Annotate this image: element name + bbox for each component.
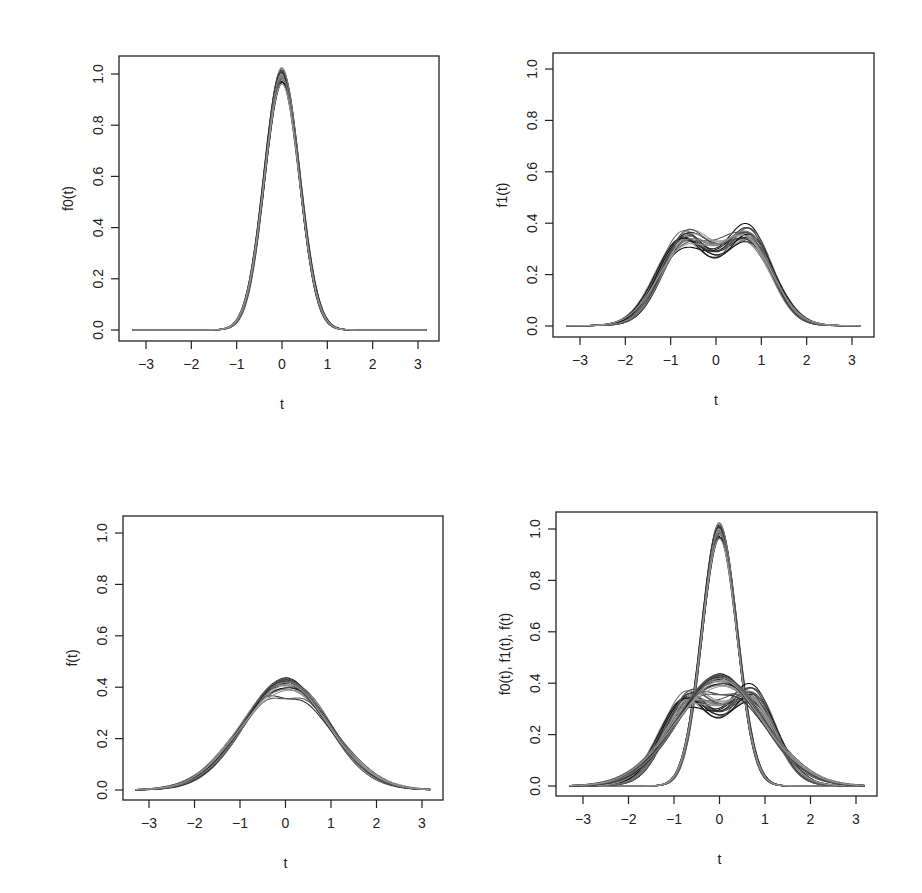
density-curve <box>132 84 426 330</box>
density-curve <box>569 692 864 786</box>
x-tick-label: 2 <box>807 811 815 827</box>
density-curve <box>135 685 430 790</box>
density-curve <box>132 72 426 330</box>
density-curve <box>569 533 864 786</box>
x-tick-label: 0 <box>716 811 724 827</box>
y-tick-label: 0.0 <box>90 320 106 340</box>
density-curve <box>135 689 430 789</box>
x-tick-label: −1 <box>666 811 682 827</box>
density-curve <box>569 539 864 786</box>
density-curve <box>569 537 864 786</box>
y-tick-label: 0.2 <box>94 729 110 749</box>
density-curve <box>132 69 426 330</box>
density-curve <box>132 73 426 330</box>
x-tick-label: 3 <box>852 811 860 827</box>
x-tick-label: −2 <box>187 815 203 831</box>
density-curve <box>132 72 426 330</box>
density-curve <box>569 680 864 786</box>
density-curve <box>566 234 860 326</box>
y-axis: 0.00.20.40.60.81.0f0(t) <box>60 64 119 340</box>
y-tick-label: 0.6 <box>527 622 543 642</box>
density-curve <box>569 530 864 786</box>
density-curve <box>569 694 864 786</box>
y-tick-label: 0.2 <box>90 269 106 289</box>
density-curve <box>569 533 864 786</box>
x-tick-label: 1 <box>323 356 331 372</box>
y-tick-label: 1.0 <box>94 523 110 543</box>
density-curve <box>566 232 860 326</box>
density-curve <box>135 684 430 790</box>
x-axis-label: t <box>284 855 288 871</box>
density-curve <box>132 78 426 330</box>
y-tick-label: 0.4 <box>90 218 106 238</box>
x-tick-label: 3 <box>414 356 422 372</box>
x-axis-label: t <box>714 392 718 408</box>
density-curve <box>132 77 426 330</box>
y-axis-label: f0(t) <box>60 186 76 211</box>
x-tick-label: −1 <box>232 815 248 831</box>
curve-group <box>132 68 426 330</box>
density-curve <box>132 82 426 330</box>
density-curve <box>132 72 426 330</box>
x-tick-label: 2 <box>369 356 377 372</box>
y-axis-label: f(t) <box>64 649 80 666</box>
y-axis-label: f0(t), f1(t), f(t) <box>497 613 513 695</box>
x-axis: −3−2−10123t <box>138 341 422 412</box>
x-tick-label: −1 <box>663 352 679 368</box>
y-tick-label: 0.4 <box>524 213 540 233</box>
y-tick-label: 0.6 <box>90 166 106 186</box>
x-tick-label: −3 <box>575 811 591 827</box>
plot-frame <box>556 512 877 796</box>
density-curve <box>569 527 864 786</box>
density-curve <box>566 234 860 326</box>
density-curve <box>566 234 860 326</box>
density-curve <box>569 526 864 786</box>
density-curve <box>135 679 430 790</box>
density-curve <box>135 680 430 790</box>
plot-overlay-f0-f1-f: −3−2−10123t0.00.20.40.60.81.0f0(t), f1(t… <box>497 512 877 867</box>
y-tick-label: 0.0 <box>94 780 110 800</box>
density-curve <box>569 681 864 786</box>
y-tick-label: 0.8 <box>94 574 110 594</box>
density-curve <box>135 681 430 790</box>
density-curve <box>132 71 426 330</box>
density-curve <box>132 80 426 330</box>
density-curve <box>569 527 864 786</box>
x-tick-label: 0 <box>278 356 286 372</box>
density-curve <box>569 529 864 786</box>
x-axis: −3−2−10123t <box>575 796 860 867</box>
density-curve <box>132 75 426 330</box>
density-curve <box>569 692 864 786</box>
density-curve <box>569 524 864 786</box>
x-tick-label: −1 <box>229 356 245 372</box>
y-tick-label: 0.8 <box>527 570 543 590</box>
plot-frame <box>119 56 439 341</box>
density-curve <box>569 681 864 786</box>
density-curve <box>569 527 864 786</box>
density-curve <box>569 676 864 786</box>
x-tick-label: −2 <box>183 356 199 372</box>
density-curve <box>569 694 864 786</box>
curve-group <box>135 678 430 790</box>
density-curve <box>132 68 426 330</box>
density-curve <box>569 680 864 785</box>
density-curve <box>569 537 864 786</box>
plot-frame <box>553 53 874 337</box>
y-tick-label: 0.8 <box>524 110 540 130</box>
density-curve <box>569 684 864 786</box>
x-tick-label: 2 <box>803 352 811 368</box>
figure: −3−2−10123t0.00.20.40.60.81.0f0(t) −3−2−… <box>0 0 922 893</box>
y-tick-label: 1.0 <box>527 519 543 539</box>
density-curve <box>135 686 430 790</box>
x-tick-label: 3 <box>418 815 426 831</box>
density-curve <box>569 532 864 786</box>
density-curve <box>569 675 864 786</box>
y-tick-label: 1.0 <box>90 64 106 84</box>
density-curve <box>135 679 430 790</box>
density-curve <box>569 532 864 786</box>
density-curve <box>135 678 430 790</box>
density-curve <box>569 689 864 786</box>
x-tick-label: 3 <box>848 352 856 368</box>
density-curve <box>135 680 430 790</box>
density-curve <box>569 692 864 786</box>
